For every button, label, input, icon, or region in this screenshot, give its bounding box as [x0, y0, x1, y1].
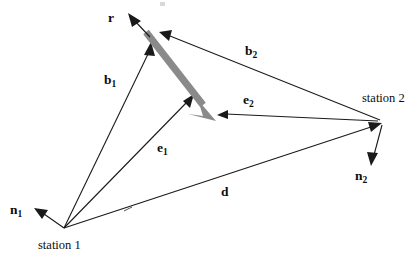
label-d: d [221, 184, 229, 199]
vector-b1 [64, 42, 155, 228]
vector-d [64, 122, 382, 228]
vector-e2-shaft [226, 114, 378, 121]
label-e2: e2 [243, 92, 254, 109]
scan-artifact [160, 2, 165, 6]
vector-e1-shaft [64, 101, 188, 228]
diagram-canvas: r b1 b2 e1 e2 d n1 n2 station 1 station … [0, 0, 420, 257]
vector-n2-arrowhead [367, 152, 378, 166]
label-b2: b2 [245, 43, 258, 60]
vector-n1-arrowhead [34, 208, 48, 219]
vector-n2 [367, 125, 382, 166]
label-r: r [108, 10, 114, 25]
vector-b2 [159, 30, 380, 120]
vector-e2 [217, 110, 378, 121]
vector-d-shaft [64, 126, 374, 228]
vector-thick-gray-shaft [146, 32, 203, 105]
vector-n1 [34, 208, 64, 228]
vector-e1 [64, 94, 194, 228]
label-e1: e1 [157, 140, 168, 157]
label-b1: b1 [104, 72, 117, 89]
vector-d-arrowhead [368, 122, 382, 132]
vector-diagram-figure: r b1 b2 e1 e2 d n1 n2 station 1 station … [0, 0, 420, 257]
vector-r [128, 13, 150, 37]
label-n2: n2 [355, 168, 368, 185]
label-n1: n1 [10, 202, 23, 219]
label-station-1: station 1 [38, 238, 81, 252]
vector-e2-arrowhead [217, 110, 228, 119]
vector-n1-shaft [44, 214, 64, 228]
label-station-2: station 2 [362, 91, 405, 105]
vector-n2-shaft [374, 125, 382, 155]
vector-b2-arrowhead [159, 30, 172, 41]
